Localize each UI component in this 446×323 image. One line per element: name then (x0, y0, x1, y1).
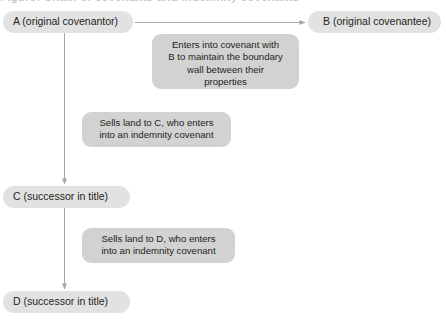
node-c-label: C (successor in title) (3, 186, 130, 207)
callout-sale-c-to-d: Sells land to D, who enters into an inde… (82, 228, 235, 263)
node-b-original-covenantee[interactable]: B (original covenantee) (308, 11, 441, 33)
node-d-successor-in-title[interactable]: D (successor in title) (3, 291, 130, 313)
node-a-label: A (original covenantor) (3, 11, 133, 32)
node-b-label: B (original covenantee) (308, 11, 441, 32)
node-c-successor-in-title[interactable]: C (successor in title) (3, 186, 130, 208)
node-a-original-covenantor[interactable]: A (original covenantor) (3, 11, 133, 33)
callout-sale-a-to-c: Sells land to C, who enters into an inde… (82, 112, 231, 147)
covenant-chain-diagram: Figure: Chain of covenants and indemnity… (0, 0, 446, 323)
node-d-label: D (successor in title) (3, 291, 130, 312)
diagram-title-clipped: Figure: Chain of covenants and indemnity… (0, 0, 446, 5)
callout-covenant-ab: Enters into covenant with B to maintain … (152, 34, 299, 89)
